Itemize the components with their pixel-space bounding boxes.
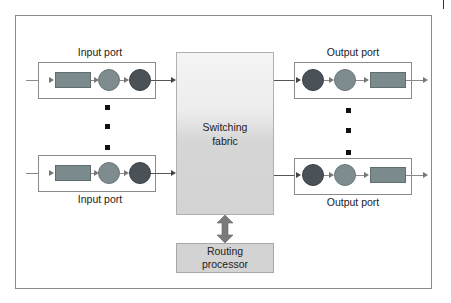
input-processor-circle-bottom (98, 162, 120, 184)
input-port-label-top: Input port (70, 46, 130, 58)
input-lookup-circle-bottom (129, 162, 151, 184)
ellipsis-dot (105, 105, 110, 110)
output-line-bottom (406, 175, 424, 176)
output-line-top (406, 80, 424, 81)
input-processor-circle-top (98, 69, 120, 91)
output-circle-mid-top (334, 69, 356, 91)
output-circle-mid-bottom (334, 164, 356, 186)
output-queue-top (370, 72, 406, 88)
input-lookup-circle-top (129, 69, 151, 91)
arrow-icon (49, 170, 54, 176)
routing-label-line1: Routing (207, 245, 243, 258)
arrow-icon (364, 77, 369, 83)
arrow-icon (364, 172, 369, 178)
output-circle-dark-bottom (302, 164, 324, 186)
input-to-fabric-line-top (151, 80, 172, 81)
routing-processor: Routing processor (176, 243, 274, 273)
fabric-to-output-line-bottom (274, 175, 296, 176)
bidirectional-arrow-icon (216, 215, 234, 243)
ellipsis-dot (105, 124, 110, 129)
routing-label-line2: processor (202, 258, 248, 271)
input-queue-top (55, 72, 91, 88)
fabric-to-output-line-top (274, 80, 296, 81)
fabric-label-line1: Switching (203, 121, 248, 133)
ellipsis-dot (105, 145, 110, 150)
input-to-fabric-line-bottom (151, 173, 172, 174)
arrow-icon (296, 172, 301, 178)
ellipsis-dot (346, 108, 351, 113)
output-queue-bottom (370, 167, 406, 183)
fabric-label-line2: fabric (212, 135, 238, 147)
arrow-icon (423, 77, 428, 83)
arrow-icon (49, 77, 54, 83)
input-port-label-bottom: Input port (70, 193, 130, 205)
input-queue-bottom (55, 165, 91, 181)
output-circle-dark-top (302, 69, 324, 91)
output-port-label-bottom: Output port (318, 196, 388, 208)
ellipsis-dot (346, 128, 351, 133)
ellipsis-dot (346, 150, 351, 155)
page-corner-mark (443, 0, 444, 9)
arrow-icon (296, 77, 301, 83)
output-port-label-top: Output port (318, 46, 388, 58)
arrow-icon (423, 172, 428, 178)
switching-fabric: Switchingfabric (176, 52, 274, 215)
